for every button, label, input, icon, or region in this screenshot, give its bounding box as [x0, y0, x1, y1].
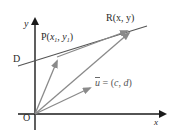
- point-r-label: R(x, y): [106, 13, 134, 23]
- point-p-label: P(x1, y1): [41, 32, 73, 45]
- vector-or: [35, 33, 129, 114]
- line-d: [18, 26, 147, 66]
- point-p-name: P: [41, 31, 47, 42]
- vector-u-label: u = (c, d): [95, 78, 132, 88]
- x-axis-label: x: [154, 117, 158, 127]
- origin-label: O: [23, 113, 30, 123]
- vector-op: [35, 61, 57, 114]
- vector-u-equals: = (: [100, 77, 114, 88]
- point-p-y-sub: 1: [67, 37, 70, 43]
- vector-u-close: ): [128, 77, 131, 88]
- vector-u: [35, 88, 90, 114]
- vector-u-name: u: [95, 78, 100, 88]
- vector-line-diagram: y x O D P(x1, y1) R(x, y) u = (c, d): [0, 0, 175, 132]
- y-axis-label: y: [24, 19, 28, 29]
- line-d-label: D: [13, 54, 20, 64]
- point-p-x-sub: 1: [54, 37, 57, 43]
